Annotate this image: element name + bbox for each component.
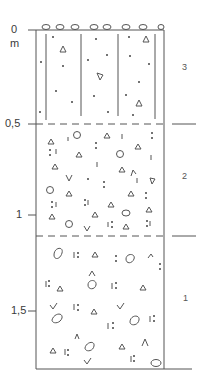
dot-symbols [39, 36, 161, 362]
depth-label-1: 1 [16, 209, 22, 220]
layer1-symbols [46, 248, 161, 366]
depth-label-0-5: 0,5 [5, 118, 20, 129]
layer2-symbols [47, 132, 156, 232]
layer-label-3: 3 [182, 63, 187, 72]
depth-unit-label: m [10, 38, 19, 49]
depth-label-0: 0 [11, 24, 17, 35]
surface-pebbles [42, 25, 164, 30]
depth-label-1-5: 1,5 [11, 305, 26, 316]
soil-profile-diagram [0, 0, 206, 385]
layer3-triangles [60, 36, 149, 106]
layer-label-1: 1 [183, 294, 188, 303]
layer-label-2: 2 [182, 172, 187, 181]
